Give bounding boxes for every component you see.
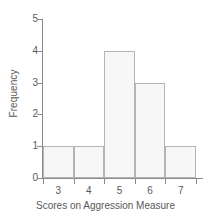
y-axis-tick-label: 1 [24,141,38,151]
y-axis-tick-label: 0 [24,173,38,183]
histogram-bar [135,83,166,178]
y-axis-label-text: Frequency [8,69,19,117]
x-axis-tick-label: 4 [74,185,104,196]
x-axis-tick [165,179,166,184]
y-axis-tick [37,51,42,52]
x-axis-tick [74,179,75,184]
x-axis-tick [135,179,136,184]
x-axis-tick-label: 6 [135,185,165,196]
histogram-bar [43,146,74,178]
x-axis-label: Scores on Aggression Measure [0,200,211,211]
histogram-bar [165,146,196,178]
x-axis-tick-label: 7 [166,185,196,196]
y-axis-tick-label: 3 [24,78,38,88]
y-axis-label: Frequency [4,0,22,186]
y-axis-tick [37,146,42,147]
x-axis-tick [104,179,105,184]
x-axis-tick-label: 3 [43,185,73,196]
histogram-chart: Frequency 012345 Scores on Aggression Me… [0,0,211,221]
y-axis-tick [37,114,42,115]
x-axis-tick [43,179,44,184]
x-axis-tick [196,179,197,184]
y-axis-tick [37,19,42,20]
x-axis-tick-label: 5 [105,185,135,196]
y-axis-tick-label: 4 [24,46,38,56]
histogram-bar [104,51,135,178]
y-axis-tick-label: 2 [24,109,38,119]
histogram-bar [74,146,105,178]
y-axis-tick [37,83,42,84]
y-axis-tick-label: 5 [24,14,38,24]
plot-area [43,19,196,178]
y-axis-tick [37,178,42,179]
y-axis-tick-labels: 012345 [22,0,38,221]
x-axis-line [42,178,203,179]
